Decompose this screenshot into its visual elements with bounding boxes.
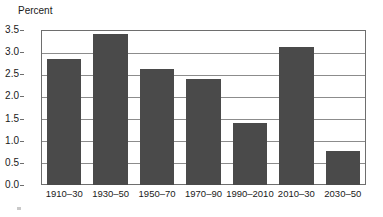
bar — [140, 69, 174, 185]
y-tick-mark — [20, 74, 24, 75]
bar-chart: Percent 0.00.51.01.52.02.53.03.5 1910–30… — [0, 0, 383, 217]
bar — [186, 79, 220, 185]
bar — [233, 123, 267, 185]
y-tick-label: 3.0 — [5, 47, 19, 57]
bar — [47, 59, 81, 185]
y-tick-mark — [20, 141, 24, 142]
y-tick-mark — [20, 52, 24, 53]
y-axis-tick-labels: 0.00.51.01.52.02.53.03.5 — [0, 0, 41, 217]
x-tick-label: 2030–50 — [314, 188, 372, 200]
y-tick-mark — [20, 185, 24, 186]
y-tick-label: 2.0 — [5, 91, 19, 101]
bar — [326, 151, 360, 185]
x-axis-tick-labels: 1910–301930–501950–701970–901990–2010201… — [41, 188, 366, 208]
y-tick-label: 1.5 — [5, 114, 19, 124]
y-tick-label: 3.5 — [5, 25, 19, 35]
y-tick-mark — [20, 30, 24, 31]
y-tick-label: 0.0 — [5, 180, 19, 190]
y-tick-label: 0.5 — [5, 158, 19, 168]
scan-artifact — [17, 207, 21, 210]
y-tick-mark — [20, 163, 24, 164]
y-tick-mark — [20, 96, 24, 97]
bar — [279, 47, 313, 185]
y-tick-label: 1.0 — [5, 136, 19, 146]
bars-layer — [41, 30, 366, 185]
y-tick-label: 2.5 — [5, 69, 19, 79]
y-tick-mark — [20, 119, 24, 120]
bar — [93, 34, 127, 185]
